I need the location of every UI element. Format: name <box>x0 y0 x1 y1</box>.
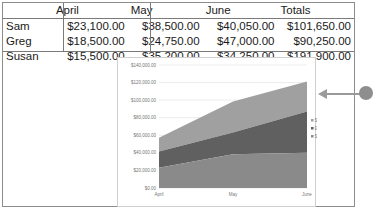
svg-text:$40,000.00: $40,000.00 <box>133 150 156 155</box>
legend-label-greg: Greg <box>315 126 318 131</box>
chart-legend: Susan Greg Sam <box>311 118 317 139</box>
legend-swatch-sam <box>311 135 314 138</box>
y-axis-labels: $0.00 $20,000.00 $40,000.00 $60,000.00 $… <box>131 63 157 191</box>
column-divider <box>150 3 151 51</box>
x-axis-labels: April May June <box>154 192 312 197</box>
table-row: Sam $23,100.00 $38,500.00 $40,050.00 $10… <box>3 19 354 35</box>
stacked-area-chart[interactable]: $0.00 $20,000.00 $40,000.00 $60,000.00 $… <box>117 57 316 207</box>
cell-may[interactable]: $38,500.00 <box>128 19 203 35</box>
column-divider <box>63 3 64 51</box>
sales-table: April May June Totals Sam $23,100.00 $38… <box>3 3 354 64</box>
svg-text:$140,000.00: $140,000.00 <box>131 63 157 68</box>
header-blank[interactable] <box>3 3 53 19</box>
svg-text:May: May <box>229 192 238 197</box>
cell-name[interactable]: Sam <box>3 19 53 35</box>
svg-text:$20,000.00: $20,000.00 <box>133 168 156 173</box>
cell-april[interactable]: $18,500.00 <box>53 34 128 49</box>
svg-text:$60,000.00: $60,000.00 <box>133 133 156 138</box>
header-row: April May June Totals <box>3 3 354 19</box>
svg-text:$120,000.00: $120,000.00 <box>131 80 157 85</box>
cell-total[interactable]: $101,650.00 <box>278 19 354 35</box>
cell-may[interactable]: $24,750.00 <box>128 34 203 49</box>
header-totals[interactable]: Totals <box>278 3 354 19</box>
svg-text:April: April <box>154 192 163 197</box>
callout-dot-icon <box>359 86 373 100</box>
row-divider <box>3 51 354 52</box>
cell-june[interactable]: $47,000.00 <box>203 34 278 49</box>
legend-swatch-susan <box>311 119 314 122</box>
svg-text:June: June <box>302 192 312 197</box>
cell-name[interactable]: Greg <box>3 34 53 49</box>
legend-swatch-greg <box>311 127 314 130</box>
legend-label-sam: Sam <box>315 134 318 139</box>
svg-text:$80,000.00: $80,000.00 <box>133 115 156 120</box>
table-row: Greg $18,500.00 $24,750.00 $47,000.00 $9… <box>3 34 354 49</box>
svg-text:$0.00: $0.00 <box>145 186 157 191</box>
chart-canvas: $0.00 $20,000.00 $40,000.00 $60,000.00 $… <box>118 58 317 208</box>
cell-april[interactable]: $23,100.00 <box>53 19 128 35</box>
svg-text:$100,000.00: $100,000.00 <box>131 98 157 103</box>
callout-line <box>324 93 360 95</box>
cell-total[interactable]: $90,250.00 <box>278 34 354 49</box>
legend-label-susan: Susan <box>315 118 318 123</box>
header-april[interactable]: April <box>53 3 128 19</box>
cell-june[interactable]: $40,050.00 <box>203 19 278 35</box>
header-may[interactable]: May <box>128 3 203 19</box>
header-june[interactable]: June <box>203 3 278 19</box>
